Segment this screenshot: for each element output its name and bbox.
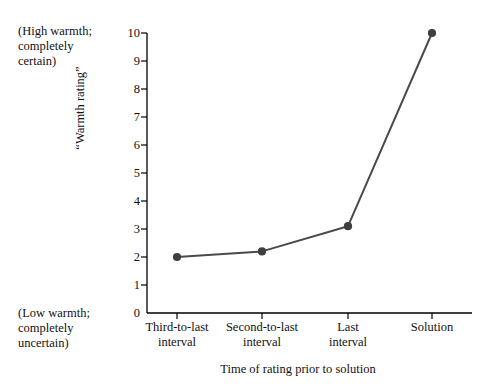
data-point-1 [258,247,266,255]
x-tick-label-3: Solution [377,320,487,335]
data-point-2 [344,222,352,230]
data-point-3 [428,29,436,37]
data-line-warmth-rating [177,33,432,257]
warmth-rating-line-chart: (High warmth; completely certain) (Low w… [0,0,500,387]
x-axis-title: Time of rating prior to solution [0,362,500,377]
x-axis-title-text: Time of rating prior to solution [220,362,375,376]
data-point-0 [173,253,181,261]
